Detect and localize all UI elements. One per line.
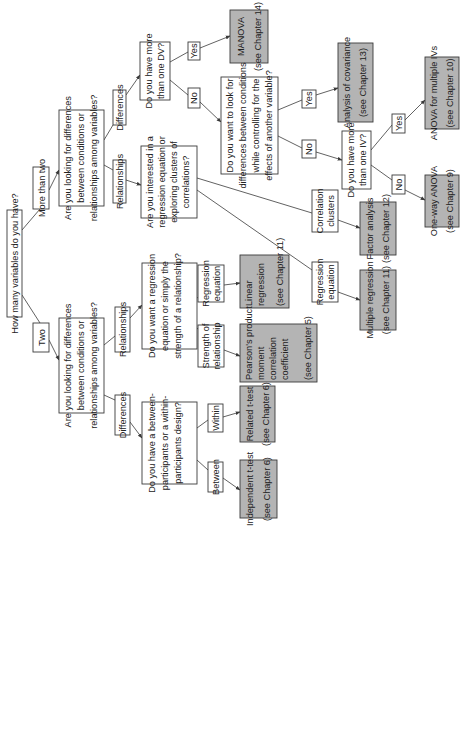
node-between: Between <box>208 459 223 495</box>
label: moment <box>256 346 266 380</box>
label: relationship <box>212 323 222 370</box>
label: (see Chapter 11) <box>275 238 285 306</box>
label: coefficient <box>280 338 290 380</box>
label: More than two <box>37 159 47 217</box>
label: Independent t-test <box>245 452 255 527</box>
label: (see Chapter 5) <box>303 316 313 380</box>
label: Within <box>211 405 221 431</box>
label: (see Chapter 14) <box>253 2 263 71</box>
label: Are you interested in a <box>145 135 155 228</box>
label: Yes <box>189 43 199 58</box>
node-relationships-two: Relationships <box>115 302 130 358</box>
label: Do you have more <box>346 122 356 197</box>
node-root-label: How many variables do you have? <box>10 193 20 333</box>
result-ancova: Analysis of covariance (see Chapter 13) <box>338 37 373 128</box>
label: Analysis of covariance <box>342 37 352 128</box>
label: regression <box>256 263 266 306</box>
result-linear-regression: Linear regression (see Chapter 11) <box>240 238 289 308</box>
label: correlations? <box>181 156 191 209</box>
node-more-than-two: More than two <box>33 159 49 217</box>
node-root: How many variables do you have? <box>7 193 22 333</box>
node-yes-dv: Yes <box>188 42 200 60</box>
node-question-interest: Are you interested in a regression equat… <box>141 135 197 228</box>
label: Are you looking for differences <box>63 96 73 220</box>
label: (see Chapter 10) <box>445 59 455 128</box>
label: than one DV? <box>156 43 166 99</box>
label: than one IV? <box>358 134 368 186</box>
label: MANOVA <box>236 16 246 56</box>
label: participants design? <box>173 402 183 484</box>
label: effects of another variable? <box>264 70 274 181</box>
result-independent-ttest: Independent t-test (see Chapter 6) <box>240 452 277 527</box>
result-anova-multiple: ANOVA for multiple IVs (see Chapter 10) <box>425 45 459 140</box>
label: Do you have a between- <box>147 393 157 493</box>
node-within: Within <box>208 404 223 432</box>
label: strength of a relationship? <box>173 253 183 359</box>
label: One-way ANOVA <box>429 165 439 236</box>
result-related-ttest: Related t-test (see Chapter 6) <box>240 382 275 446</box>
label: Differences <box>115 84 125 131</box>
node-differences-more: Differences <box>113 84 126 131</box>
label: Do you want to look for <box>225 79 235 173</box>
label: (see Chapter 6) <box>261 382 271 446</box>
node-correlation-clusters: Correlation clusters <box>312 189 338 234</box>
label: relationships among variables? <box>89 302 99 429</box>
label: relationships among variables? <box>89 95 99 222</box>
label: (see Chapter 13) <box>358 48 368 117</box>
label: clusters <box>326 195 336 227</box>
node-no-dv: No <box>188 88 200 108</box>
node-yes-cov: Yes <box>302 90 316 108</box>
node-question-iv: Do you have more than one IV? <box>342 122 371 197</box>
node-question-design: Do you have a between- participants or a… <box>142 393 197 493</box>
label: equation <box>212 266 222 301</box>
node-no-cov: No <box>302 140 316 158</box>
label: (see Chapter 9) <box>445 169 455 233</box>
node-question-covariate: Do you want to look for differences betw… <box>221 62 278 188</box>
label: No <box>189 92 199 104</box>
label: Related t-test <box>245 386 255 441</box>
label: equation or simply the <box>160 261 170 351</box>
label: differences between conditions <box>238 62 248 188</box>
label: Do you want a regression <box>147 254 157 358</box>
result-manova: MANOVA (see Chapter 14) <box>230 2 268 71</box>
label: Do you have more <box>144 33 154 108</box>
label: Correlation <box>315 189 325 234</box>
label: (see Chapter 11) <box>381 266 391 334</box>
label: Factor analysis <box>365 197 375 259</box>
label: regression equation or <box>157 136 167 227</box>
node-question-more: Are you looking for differences between … <box>59 95 104 222</box>
label: Two <box>37 329 47 346</box>
node-yes-iv: Yes <box>392 114 405 133</box>
label: Regression <box>315 259 325 305</box>
label: Multiple regression <box>365 261 375 338</box>
node-question-dv: Do you have more than one DV? <box>140 33 170 108</box>
label: Yes <box>304 91 314 106</box>
label: Yes <box>394 116 404 131</box>
label: Relationships <box>118 302 128 358</box>
node-relationships-more: Relationships <box>113 154 126 210</box>
label: ANOVA for multiple IVs <box>429 45 439 140</box>
node-differences-two: Differences <box>115 391 130 438</box>
label: Are you looking for differences <box>63 303 73 427</box>
label: exploring clusters of <box>169 141 179 223</box>
label: correlation <box>268 337 278 380</box>
label: Strength of <box>201 323 211 368</box>
label: Relationships <box>115 154 125 210</box>
result-multiple-regression: Multiple regression (see Chapter 11) <box>360 261 396 338</box>
label: No <box>304 143 314 155</box>
label: between conditions or <box>76 321 86 410</box>
label: Between <box>211 459 221 495</box>
node-regression-equation-two: Regression equation <box>198 260 224 306</box>
node-question-regression: Do you want a regression equation or sim… <box>142 253 197 359</box>
label: Regression <box>201 260 211 306</box>
label: equation <box>326 264 336 299</box>
node-strength-of-relationship: Strength of relationship <box>198 323 224 370</box>
label: Differences <box>118 391 128 438</box>
label: Linear <box>244 280 254 306</box>
node-regression-equation-more: Regression equation <box>312 259 338 305</box>
node-no-iv: No <box>392 175 405 194</box>
label: (see Chapter 12) <box>381 194 391 263</box>
label: No <box>394 179 404 191</box>
label: (see Chapter 6) <box>262 457 272 521</box>
label: while controlling for the <box>251 79 261 174</box>
